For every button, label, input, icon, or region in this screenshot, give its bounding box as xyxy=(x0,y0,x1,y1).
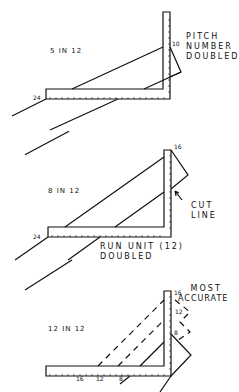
pitch-label-8-in-12: 8 IN 12 xyxy=(48,188,80,195)
run-mark-16: 16 xyxy=(76,376,84,382)
rise-mark-12: 12 xyxy=(175,309,183,315)
annotation-run-unit-doubled: RUN UNIT (12) DOUBLED xyxy=(100,242,184,262)
rise-mark-8: 8 xyxy=(174,330,178,336)
pitch-label-12-in-12: 12 IN 12 xyxy=(48,326,86,333)
run-mark-24: 24 xyxy=(33,95,41,101)
run-mark-24: 24 xyxy=(33,234,41,240)
square-8-in-12 xyxy=(15,131,188,260)
square-5-in-12 xyxy=(12,12,181,130)
rise-mark-10: 10 xyxy=(172,41,180,47)
rise-mark-16: 16 xyxy=(174,144,182,150)
run-mark-12: 12 xyxy=(96,376,104,382)
run-mark-8: 8 xyxy=(119,376,123,382)
annotation-pitch-number-doubled: PITCH NUMBER DOUBLED xyxy=(186,32,239,62)
pitch-label-5-in-12: 5 IN 12 xyxy=(50,48,82,55)
annotation-most-accurate: MOST ACCURATE xyxy=(184,284,228,304)
annotation-cut-line: CUT LINE xyxy=(191,201,217,221)
